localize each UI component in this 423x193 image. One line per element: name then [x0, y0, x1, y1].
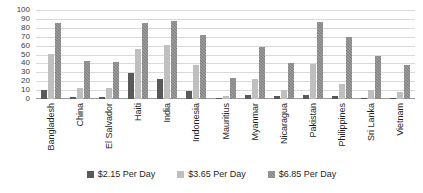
legend-item[interactable]: $6.85 Per Day — [268, 170, 337, 179]
y-tick-label: 70 — [21, 33, 30, 41]
bar[interactable] — [216, 98, 222, 99]
y-tick-label: 50 — [21, 51, 30, 59]
y-tick-label: 10 — [21, 86, 30, 94]
bar[interactable] — [390, 98, 396, 99]
bar[interactable] — [274, 96, 280, 99]
y-tick-label: 20 — [21, 77, 30, 85]
bar[interactable] — [368, 90, 374, 99]
bar[interactable] — [135, 49, 141, 99]
x-label-cell: Mauritius — [211, 101, 240, 163]
bar[interactable] — [48, 54, 54, 99]
y-tick-label: 30 — [21, 68, 30, 76]
x-label-cell: Indonesia — [182, 101, 211, 163]
bar[interactable] — [55, 23, 61, 99]
x-axis-label: Mauritius — [221, 103, 230, 140]
legend-item[interactable]: $2.15 Per Day — [87, 170, 156, 179]
x-label-cell: Sri Lanka — [357, 101, 386, 163]
x-label-cell: Myanmar — [240, 101, 269, 163]
x-axis-label: Vietnam — [396, 103, 405, 136]
x-axis-label: Sri Lanka — [367, 103, 376, 141]
bar[interactable] — [70, 97, 76, 99]
x-axis-label: Indonesia — [192, 103, 201, 142]
bar[interactable] — [106, 88, 112, 99]
bar[interactable] — [259, 47, 265, 99]
bar[interactable] — [200, 35, 206, 99]
legend-swatch-icon — [177, 171, 184, 178]
bar[interactable] — [252, 79, 258, 99]
x-label-cell: Pakistan — [298, 101, 327, 163]
bar[interactable] — [157, 79, 163, 99]
x-axis-label: Haiti — [134, 103, 143, 121]
x-axis-label: China — [75, 103, 84, 127]
y-tick-label: 100 — [17, 6, 30, 14]
y-tick-label: 40 — [21, 59, 30, 67]
bar[interactable] — [245, 95, 251, 99]
bar[interactable] — [404, 65, 410, 99]
bar-group — [65, 10, 94, 99]
bar[interactable] — [99, 97, 105, 99]
bar[interactable] — [281, 90, 287, 99]
y-tick-label: 90 — [21, 15, 30, 23]
chart-legend: $2.15 Per Day$3.65 Per Day$6.85 Per Day — [0, 170, 423, 179]
y-tick-label: 60 — [21, 42, 30, 50]
x-axis-label: Myanmar — [250, 103, 259, 141]
bar-group — [211, 10, 240, 99]
bar-group — [269, 10, 298, 99]
bar[interactable] — [128, 73, 134, 99]
bar[interactable] — [361, 98, 367, 99]
bar[interactable] — [375, 56, 381, 99]
bar-group — [328, 10, 357, 99]
legend-swatch-icon — [87, 171, 94, 178]
bar[interactable] — [223, 96, 229, 99]
bar-group — [94, 10, 123, 99]
x-label-cell: Nicaragua — [269, 101, 298, 163]
bar-group — [182, 10, 211, 99]
bar-group — [298, 10, 327, 99]
bar-chart: 1009080706050403020100 BangladeshChinaEl… — [0, 0, 423, 193]
bar-groups — [36, 10, 415, 99]
bar[interactable] — [41, 90, 47, 99]
bar[interactable] — [317, 22, 323, 99]
plot-area — [36, 10, 415, 99]
bar[interactable] — [397, 92, 403, 99]
x-axis-labels: BangladeshChinaEl SalvadorHaitiIndiaIndo… — [36, 101, 415, 163]
bar-group — [123, 10, 152, 99]
bar[interactable] — [288, 63, 294, 99]
x-label-cell: Bangladesh — [36, 101, 65, 163]
x-label-cell: Vietnam — [386, 101, 415, 163]
bar[interactable] — [339, 84, 345, 99]
bar[interactable] — [332, 96, 338, 99]
bar[interactable] — [346, 37, 352, 99]
x-axis-label: Nicaragua — [279, 103, 288, 144]
bar[interactable] — [164, 45, 170, 99]
x-axis-label: India — [163, 103, 172, 123]
legend-label: $2.15 Per Day — [98, 170, 156, 179]
bar[interactable] — [171, 21, 177, 99]
bar[interactable] — [113, 62, 119, 99]
x-label-cell: China — [65, 101, 94, 163]
x-label-cell: Philippines — [328, 101, 357, 163]
y-tick-label: 80 — [21, 24, 30, 32]
bar[interactable] — [77, 88, 83, 99]
bar[interactable] — [230, 78, 236, 99]
legend-item[interactable]: $3.65 Per Day — [177, 170, 246, 179]
legend-swatch-icon — [268, 171, 275, 178]
y-tick-label: 0 — [26, 95, 30, 103]
x-axis-label: El Salvador — [104, 103, 113, 149]
y-axis: 1009080706050403020100 — [0, 10, 33, 99]
bar-group — [240, 10, 269, 99]
bar[interactable] — [303, 95, 309, 99]
bar[interactable] — [84, 61, 90, 99]
bar-group — [386, 10, 415, 99]
x-label-cell: Haiti — [123, 101, 152, 163]
bar-group — [357, 10, 386, 99]
legend-label: $3.65 Per Day — [188, 170, 246, 179]
x-axis-label: Philippines — [338, 103, 347, 147]
bar[interactable] — [142, 23, 148, 99]
bar[interactable] — [310, 64, 316, 99]
bar-group — [153, 10, 182, 99]
bar[interactable] — [193, 65, 199, 99]
x-axis-label: Bangladesh — [46, 103, 55, 151]
bar-group — [36, 10, 65, 99]
bar[interactable] — [186, 91, 192, 99]
